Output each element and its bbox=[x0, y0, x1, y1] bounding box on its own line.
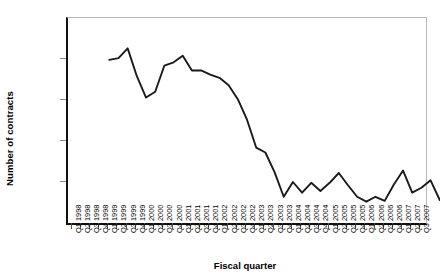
x-tick-label: Q4 2001 bbox=[211, 205, 220, 233]
x-tick-label: Q1 2004 bbox=[294, 205, 303, 233]
x-tick-label: Q1 1999 bbox=[110, 205, 119, 233]
x-tick-label: Q3 2001 bbox=[202, 205, 211, 233]
x-tick-label: Q2 2001 bbox=[193, 205, 202, 233]
x-tick-label: Q4 1999 bbox=[138, 205, 147, 233]
y-tick-mark bbox=[60, 58, 66, 59]
x-tick-label: Q4 2000 bbox=[175, 205, 184, 233]
x-tick-label: Q2 2002 bbox=[230, 205, 239, 233]
x-tick-label: Q2 1998 bbox=[83, 205, 92, 233]
x-tick-label: Q3 2003 bbox=[276, 205, 285, 233]
x-tick-label: Q1 2003 bbox=[257, 205, 266, 233]
x-tick-label: Q2 2004 bbox=[303, 205, 312, 233]
x-axis-title: Fiscal quarter bbox=[66, 260, 424, 271]
x-tick-label: Q1 2002 bbox=[220, 205, 229, 233]
x-tick-label: Q4 1998 bbox=[101, 205, 110, 233]
x-tick-label: Q3 2005 bbox=[349, 205, 358, 233]
x-tick-label: Q3 2000 bbox=[165, 205, 174, 233]
x-tick-label: Q3 1998 bbox=[92, 205, 101, 233]
data-line-0 bbox=[109, 48, 439, 201]
x-tick-label: Q3 2006 bbox=[386, 205, 395, 233]
x-axis-tick-labels: Q1 1998Q2 1998Q3 1998Q4 1998Q1 1999Q2 19… bbox=[66, 224, 424, 264]
x-tick-label: Q1 2007 bbox=[404, 205, 413, 233]
x-tick-label: Q1 2000 bbox=[147, 205, 156, 233]
x-tick-label: Q4 2005 bbox=[358, 205, 367, 233]
y-axis-title: Number of contracts bbox=[0, 0, 18, 277]
y-tick-mark bbox=[60, 99, 66, 100]
chart-figure: Number of contracts 35,00040,00045,00050… bbox=[0, 0, 440, 277]
line-series-svg bbox=[68, 18, 426, 223]
x-tick-label: Q2 2005 bbox=[340, 205, 349, 233]
x-tick-label: Q1 2006 bbox=[367, 205, 376, 233]
x-tick-label: Q2 1999 bbox=[119, 205, 128, 233]
x-tick-label: Q2 2003 bbox=[266, 205, 275, 233]
y-tick-mark bbox=[60, 181, 66, 182]
x-tick-label: Q3 2002 bbox=[239, 205, 248, 233]
x-tick-label: Q4 2006 bbox=[395, 205, 404, 233]
x-tick-label: Q4 2002 bbox=[248, 205, 257, 233]
x-tick-label: Q4 2004 bbox=[321, 205, 330, 233]
x-tick-label: Q2 2000 bbox=[156, 205, 165, 233]
x-tick-label: Q3 2004 bbox=[312, 205, 321, 233]
x-tick-label: Q2 2006 bbox=[377, 205, 386, 233]
x-tick-label: Q3 1999 bbox=[129, 205, 138, 233]
y-tick-mark bbox=[60, 140, 66, 141]
x-tick-label: Q1 2005 bbox=[331, 205, 340, 233]
x-tick-label: Q1 1998 bbox=[74, 205, 83, 233]
x-tick-label: Q4 2003 bbox=[285, 205, 294, 233]
plot-area bbox=[66, 17, 427, 225]
x-tick-label: Q1 2001 bbox=[184, 205, 193, 233]
x-tick-label: Q2 2007 bbox=[413, 205, 422, 233]
x-tick-label: Q3 2007 bbox=[422, 205, 431, 233]
